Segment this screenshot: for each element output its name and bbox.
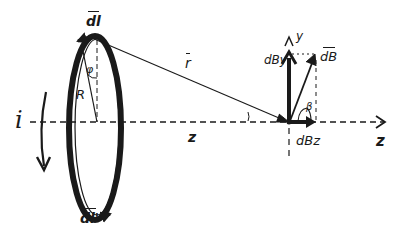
r-vector-label: r bbox=[185, 56, 191, 70]
R-label: R bbox=[76, 88, 85, 101]
current-loop bbox=[69, 36, 121, 220]
current-label: i bbox=[15, 108, 23, 132]
z-distance-label: z bbox=[188, 130, 196, 144]
current-arrow-icon bbox=[41, 92, 46, 166]
z-axis-label: z bbox=[376, 134, 385, 149]
diagram-canvas bbox=[0, 0, 411, 240]
phi-label: φ bbox=[86, 64, 93, 75]
point-p bbox=[287, 120, 292, 125]
dl-prime-label: dl' bbox=[80, 211, 99, 225]
radius-line bbox=[82, 46, 97, 122]
dBy-label: dBy bbox=[264, 54, 287, 66]
angle-arc bbox=[248, 112, 249, 121]
dBz-label: dBz bbox=[296, 134, 320, 147]
dB-label: dB bbox=[320, 50, 337, 63]
beta-label: β bbox=[306, 102, 312, 112]
z-axis bbox=[30, 116, 385, 128]
y-axis-arrowhead-icon bbox=[285, 37, 293, 46]
y-axis-label: y bbox=[296, 30, 303, 42]
dl-label: dl bbox=[86, 14, 101, 28]
